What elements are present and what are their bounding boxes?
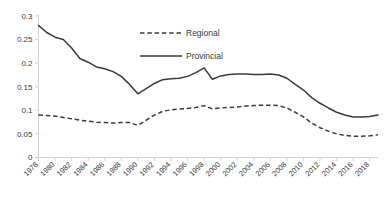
x-tick-label: 2018	[353, 160, 371, 178]
series-lines	[39, 25, 379, 136]
y-tick-label: 0.15	[17, 83, 33, 92]
x-tick-label: 2008	[270, 160, 288, 178]
x-tick-label: 2010	[287, 160, 305, 178]
x-axis: 1978198019821984198619881990199219941996…	[22, 158, 378, 179]
x-tick-label: 2004	[237, 160, 255, 178]
x-tick-label: 1980	[38, 160, 56, 178]
x-tick-label: 2014	[320, 160, 338, 178]
x-tick-label: 1984	[71, 160, 89, 178]
x-tick-label: 2002	[220, 160, 238, 178]
legend-label-provincial: Provincial	[186, 51, 223, 61]
x-tick-label: 2012	[303, 160, 321, 178]
line-chart: 00.050.10.150.20.250.3 19781980198219841…	[0, 0, 384, 214]
x-tick-label: 1990	[121, 160, 139, 178]
y-tick-label: 0.1	[21, 106, 33, 115]
x-tick-label: 1978	[22, 160, 40, 178]
x-tick-label: 1994	[154, 160, 172, 178]
series-line-regional	[39, 105, 379, 136]
x-tick-label: 1992	[138, 160, 156, 178]
chart-canvas: 00.050.10.150.20.250.3 19781980198219841…	[0, 0, 384, 214]
x-tick-label: 2006	[254, 160, 272, 178]
y-tick-label: 0.3	[21, 12, 33, 21]
y-tick-label: 0.2	[21, 59, 33, 68]
legend-label-regional: Regional	[186, 28, 220, 38]
y-tick-label: 0.25	[17, 35, 33, 44]
series-line-provincial	[39, 25, 379, 117]
x-tick-label: 1988	[105, 160, 123, 178]
chart-legend: RegionalProvincial	[140, 28, 223, 61]
x-tick-label: 1986	[88, 160, 106, 178]
x-tick-label: 1996	[171, 160, 189, 178]
x-tick-label: 2000	[204, 160, 222, 178]
y-tick-label: 0.05	[17, 130, 33, 139]
y-axis: 00.050.10.150.20.250.3	[17, 12, 39, 163]
x-tick-label: 2016	[336, 160, 354, 178]
x-tick-label: 1998	[187, 160, 205, 178]
x-tick-label: 1982	[55, 160, 73, 178]
